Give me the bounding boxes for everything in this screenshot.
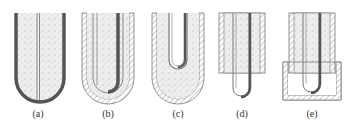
diagram-canvas: (a) (b) (c) (d) (e): [0, 0, 353, 129]
label-c: (c): [172, 108, 183, 120]
panel-d: [219, 13, 265, 97]
panel-a: [16, 13, 64, 102]
panel-b: [82, 13, 134, 104]
label-d: (d): [236, 108, 248, 120]
panel-c: [152, 13, 204, 104]
powder-fill: [224, 13, 260, 73]
label-b: (b): [102, 108, 114, 120]
panel-e: [283, 13, 341, 100]
label-a: (a): [32, 108, 43, 120]
powder-fill: [294, 13, 330, 73]
label-e: (e): [306, 108, 317, 120]
